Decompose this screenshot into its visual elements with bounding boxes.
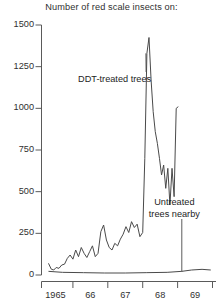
data-line bbox=[48, 38, 178, 271]
y-tick-label: 250 bbox=[0, 227, 34, 237]
annotation-untreated-line2: trees nearby bbox=[149, 209, 200, 221]
chart-container: Number of red scale insects on: 02505007… bbox=[0, 0, 223, 308]
annotation-untreated-trees-nearby: Untreated trees nearby bbox=[149, 197, 200, 220]
x-axis-ticks bbox=[42, 282, 213, 289]
y-tick-label: 1500 bbox=[0, 19, 34, 29]
annotation-ddt-treated-trees: DDT-treated trees bbox=[78, 74, 151, 86]
y-axis-ticks bbox=[36, 25, 42, 275]
data-series-layer bbox=[48, 38, 210, 274]
y-tick-label: 750 bbox=[0, 144, 34, 154]
axes-layer bbox=[36, 25, 217, 288]
y-tick-label: 500 bbox=[0, 186, 34, 196]
y-tick-label: 0 bbox=[0, 269, 34, 279]
data-line bbox=[48, 269, 210, 273]
plot-area bbox=[0, 0, 223, 308]
x-tick-label: 69 bbox=[175, 290, 215, 300]
annotation-untreated-line1: Untreated bbox=[149, 197, 200, 209]
y-tick-label: 1250 bbox=[0, 61, 34, 71]
y-tick-label: 1000 bbox=[0, 102, 34, 112]
